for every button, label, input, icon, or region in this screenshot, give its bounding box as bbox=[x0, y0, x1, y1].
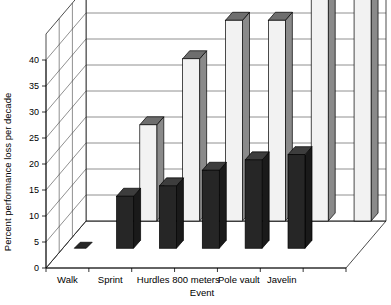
bar-front-face bbox=[268, 20, 285, 221]
bar-front-3 bbox=[202, 162, 226, 248]
bar-back-5 bbox=[311, 0, 335, 221]
bar-side-face bbox=[134, 188, 141, 248]
bar-side-face bbox=[176, 178, 183, 248]
bar-front-face bbox=[288, 155, 305, 249]
y-tick-label: 5 bbox=[34, 237, 39, 247]
bar-back-6 bbox=[354, 0, 378, 221]
bar-front-face bbox=[245, 160, 262, 248]
bar-front-face bbox=[202, 170, 219, 248]
y-tick-label: 25 bbox=[29, 133, 39, 143]
bar-front-face bbox=[159, 186, 176, 248]
bar-front-face bbox=[354, 0, 371, 221]
y-tick-label: 10 bbox=[29, 211, 39, 221]
x-tick-label: Sprint bbox=[98, 274, 123, 285]
bar-chart-3d: 0510152025303540WalkSprintHurdles800 met… bbox=[0, 0, 391, 305]
y-tick-label: 15 bbox=[29, 185, 39, 195]
bar-side-face bbox=[371, 0, 378, 221]
bar-front-1 bbox=[117, 188, 141, 248]
x-axis-title: Event bbox=[190, 287, 215, 298]
bar-front-face bbox=[140, 125, 157, 221]
x-tick-label: Javelin bbox=[267, 274, 297, 285]
y-tick-label: 35 bbox=[29, 81, 39, 91]
bar-front-face bbox=[226, 20, 243, 221]
bar-front-face bbox=[311, 0, 328, 221]
bar-side-face bbox=[328, 0, 335, 221]
x-tick-label: Walk bbox=[57, 274, 78, 285]
bar-side-face bbox=[219, 162, 226, 248]
bar-side-face bbox=[262, 152, 269, 248]
bar-front-5 bbox=[288, 147, 312, 249]
bar-side-face bbox=[305, 147, 312, 249]
bar-front-4 bbox=[245, 152, 269, 248]
x-tick-label: Hurdles bbox=[137, 274, 170, 285]
chart-container: 0510152025303540WalkSprintHurdles800 met… bbox=[0, 0, 391, 305]
bar-front-2 bbox=[159, 178, 183, 248]
y-axis-title: Percent performance loss per decade bbox=[2, 93, 13, 251]
y-tick-label: 30 bbox=[29, 107, 39, 117]
bar-front-face bbox=[183, 59, 200, 221]
bar-front-face bbox=[117, 196, 134, 248]
y-tick-label: 40 bbox=[29, 55, 39, 65]
x-tick-label: Pole vault bbox=[218, 274, 260, 285]
x-tick-label: 800 meters bbox=[172, 274, 220, 285]
y-tick-label: 20 bbox=[29, 159, 39, 169]
y-tick-label: 0 bbox=[34, 263, 39, 273]
